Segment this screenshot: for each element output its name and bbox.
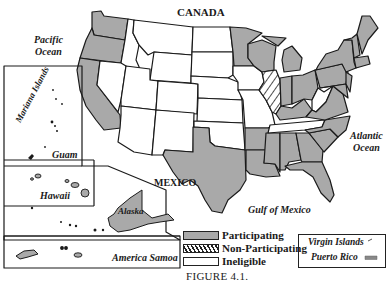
label-virgin-islands: Virgin Islands bbox=[308, 238, 364, 248]
label-atlantic-l1: Atlantic bbox=[350, 131, 383, 141]
state-maine bbox=[357, 16, 378, 54]
legend-item-non-participating: Non-Participating bbox=[183, 242, 307, 254]
state-new-mexico bbox=[152, 110, 194, 155]
legend-label: Ineligible bbox=[222, 255, 266, 267]
state-kansas bbox=[197, 98, 243, 123]
state-florida bbox=[285, 162, 334, 202]
label-puerto-rico: Puerto Rico bbox=[311, 253, 358, 263]
swatch-non-participating bbox=[183, 244, 219, 253]
swatch-participating bbox=[183, 231, 219, 240]
label-guam: Guam bbox=[52, 150, 78, 160]
figure-caption: FIGURE 4.1. bbox=[186, 270, 248, 282]
samoa-islands bbox=[16, 250, 38, 259]
swatch-ineligible bbox=[183, 257, 219, 266]
label-hawaii: Hawaii bbox=[40, 191, 70, 201]
guam bbox=[28, 154, 34, 160]
label-mexico: MEXICO bbox=[154, 178, 196, 188]
label-atlantic-l2: Ocean bbox=[350, 143, 383, 153]
state-wyoming bbox=[150, 52, 192, 83]
label-pacific-l1: Pacific bbox=[34, 35, 63, 45]
label-pacific-ocean: Pacific Ocean bbox=[34, 35, 63, 57]
label-pacific-l2: Ocean bbox=[34, 47, 63, 57]
state-nebraska bbox=[191, 76, 242, 100]
legend-item-ineligible: Ineligible bbox=[183, 255, 266, 267]
label-gulf-of-mexico: Gulf of Mexico bbox=[248, 205, 311, 215]
aleutian-islands bbox=[31, 207, 104, 232]
legend-label: Participating bbox=[222, 229, 284, 241]
label-alaska: Alaska bbox=[118, 207, 144, 216]
legend-label: Non-Participating bbox=[222, 242, 307, 254]
mariana-islands bbox=[44, 89, 63, 148]
state-indiana bbox=[280, 76, 292, 106]
state-arizona bbox=[118, 106, 156, 155]
legend-item-participating: Participating bbox=[183, 229, 284, 241]
state-south-dakota bbox=[191, 52, 233, 78]
state-north-dakota bbox=[192, 27, 233, 52]
label-atlantic-ocean: Atlantic Ocean bbox=[350, 131, 383, 153]
state-new-england-south bbox=[354, 56, 370, 68]
state-colorado bbox=[156, 81, 198, 114]
label-america-samoa: America Samoa bbox=[112, 253, 178, 263]
state-montana bbox=[133, 20, 193, 55]
label-canada: CANADA bbox=[177, 7, 225, 18]
